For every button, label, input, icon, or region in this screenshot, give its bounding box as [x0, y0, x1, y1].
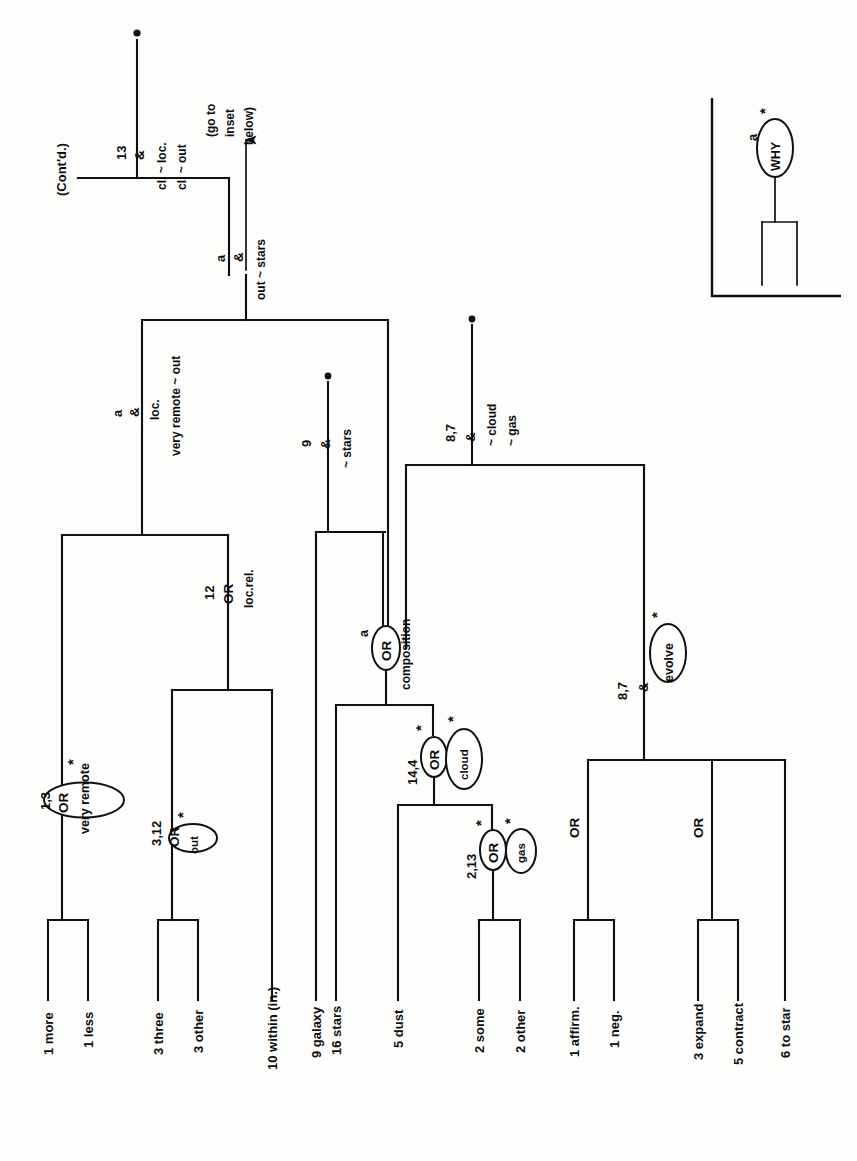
continuation-label: (Cont'd.): [54, 143, 69, 196]
node-3-12-or-operator: OR: [167, 826, 182, 847]
node-1-3-or-operator: OR: [56, 792, 71, 813]
node-1-3-or-rank: 1,3: [38, 792, 53, 810]
inset-node-label: WHY: [769, 141, 783, 171]
logic-tree-svg: (Cont'd.) 13 & cl. ~ loc. cl. ~ out (go …: [0, 0, 857, 1161]
node-or-expand-operator: OR: [691, 817, 706, 838]
node-a-loc-rank: a: [110, 409, 125, 417]
node-a-loc-premise-2: very remote ~ out: [169, 356, 183, 456]
ellipse-gas-label: gas: [515, 843, 527, 863]
node-8-7-cloudgas-premise-1: ~ cloud: [485, 404, 499, 446]
node-8-7-cloudgas-rank: 8,7: [443, 424, 458, 442]
leaf-label-to-star: 6 to star: [778, 1007, 793, 1058]
leaf-label-expand: 3 expand: [691, 1004, 706, 1060]
leaf-label-other-2: 2 other: [513, 1010, 528, 1053]
inset-pointer-line-3: below): [242, 107, 256, 145]
node-12-rank: 12: [202, 586, 217, 600]
node-a-out-stars-rank: a: [213, 254, 228, 262]
node-13-premise-2: cl. ~ out: [175, 144, 189, 190]
node-8-7-evolve-operator: &: [636, 682, 651, 692]
node-12-group: [172, 610, 272, 1000]
node-or-affirm-group: [574, 920, 614, 1000]
leaf-label-contract: 5 contract: [731, 1002, 746, 1065]
node-9-terminator-dot: [325, 373, 332, 380]
node-a-loc-operator: &: [127, 407, 142, 417]
node-2-13-or-operator-star: *: [472, 820, 489, 826]
inset-box-group: [712, 98, 841, 296]
node-a-loc-premise-1: loc.: [148, 399, 162, 420]
node-or-affirm-operator: OR: [567, 817, 582, 838]
node-8-7-evolve-group: [588, 624, 712, 920]
node-14-4-or-rank: 14,4: [405, 759, 420, 785]
leaf-label-less: 1 less: [81, 1012, 96, 1048]
node-a-loc-group: [62, 430, 228, 790]
node-3-12-or-star: *: [174, 812, 191, 818]
node-13-operator: &: [132, 150, 147, 160]
node-8-7-cloudgas-operator: &: [463, 432, 478, 442]
node-a-composition-premise-1: composition: [399, 619, 413, 690]
node-13-rank: 13: [114, 146, 129, 160]
diagram-canvas: (Cont'd.) 13 & cl. ~ loc. cl. ~ out (go …: [0, 0, 857, 1161]
inset-pointer-line-1: (go to: [204, 104, 218, 137]
node-2-13-or-operator: OR: [486, 842, 501, 863]
leaf-label-neg: 1 neg.: [607, 1010, 622, 1048]
node-2-13-or-rank: 2,13: [464, 854, 479, 879]
leaf-label-affirm: 1 affirm.: [567, 1006, 582, 1057]
leaf-label-galaxy: 9 galaxy: [309, 1006, 324, 1058]
node-9-premise-1: ~ stars: [340, 429, 354, 468]
ellipse-very-remote-label: very remote: [78, 763, 92, 834]
node-8-7-cloudgas-premise-2: ~ gas: [505, 415, 519, 446]
node-3-12-or-rank: 3,12: [149, 821, 164, 846]
node-8-7-evolve-rank: 8,7: [615, 682, 630, 700]
node-8-7-cloudgas-group: [406, 316, 644, 648]
leaf-label-within: 10 within (in.): [265, 987, 280, 1070]
node-12-operator: OR: [221, 583, 236, 604]
ellipse-cloud-label: cloud: [458, 749, 470, 780]
inset-pointer-line-2: inset: [223, 109, 237, 137]
node-a-composition-group: [336, 626, 433, 1000]
ellipse-cloud-star: *: [444, 716, 461, 722]
node-a-out-stars-operator: &: [231, 252, 246, 262]
node-13-group: [78, 29, 229, 275]
node-13-terminator-dot: [133, 29, 140, 36]
node-8-7-terminator-dot: [469, 316, 476, 323]
leaf-label-some: 2 some: [472, 1008, 487, 1053]
ellipse-gas-star: *: [501, 818, 518, 824]
leaf-label-stars: 16 stars: [329, 1006, 344, 1055]
node-12-premise-1: loc.rel.: [242, 569, 256, 608]
node-a-composition-rank: a: [356, 629, 371, 637]
ellipse-out-label: out: [188, 836, 200, 854]
ellipse-evolve-label: evolve: [662, 643, 676, 682]
leaf-label-dust: 5 dust: [391, 1009, 406, 1048]
node-9-operator: &: [318, 439, 333, 449]
node-a-composition-operator: OR: [379, 640, 394, 661]
node-14-4-or-operator: OR: [427, 749, 442, 770]
node-a-out-stars-premise-1: out ~ stars: [254, 239, 268, 300]
leaf-label-other-1: 3 other: [191, 1010, 206, 1053]
leaf-label-three: 3 three: [151, 1012, 166, 1055]
ellipse-evolve-star: *: [648, 612, 665, 618]
inset-node-rank: a: [745, 133, 760, 141]
node-1-3-or-star: *: [64, 759, 81, 765]
node-13-premise-1: cl. ~ loc.: [155, 142, 169, 190]
node-9-rank: 9: [299, 440, 314, 447]
inset-node-star: *: [756, 108, 773, 114]
leaf-label-more: 1 more: [41, 1012, 56, 1055]
node-14-4-or-operator-star: *: [412, 725, 429, 731]
